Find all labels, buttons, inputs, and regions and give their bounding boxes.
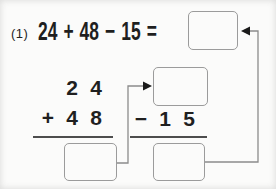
addition-top-tens: 2 [60,77,84,99]
operand-1: 24 [38,16,57,47]
equals-sign: = [147,16,157,47]
arrow-left-icon [241,27,250,36]
minus-operator: − [105,16,115,47]
addition-bottom-ones: 8 [84,107,108,129]
addition-top-ones: 4 [84,77,108,99]
addition-top-row: 2 4 [36,77,108,99]
subtraction-minus-sign: − [129,108,153,130]
arrow-right-icon [143,82,152,91]
addition-result-box[interactable] [64,143,117,181]
connector-line-sub-to-answer [205,31,258,162]
addition-bottom-tens: 4 [60,107,84,129]
problem-number: (1) [11,26,28,41]
operand-3: 15 [121,16,140,47]
subtraction-rule-line [130,136,207,138]
addition-plus-sign: + [36,107,60,129]
subtraction-result-box[interactable] [153,143,205,181]
subtraction-tens: 1 [153,108,177,130]
addition-top-blank [36,77,60,99]
addition-bottom-row: + 4 8 [36,107,108,129]
subtraction-row: − 1 5 [129,108,201,130]
operand-2: 48 [80,16,99,47]
final-answer-box[interactable] [188,11,238,50]
minuend-box[interactable] [153,67,208,106]
subtraction-ones: 5 [177,108,201,130]
addition-rule-line [33,136,113,138]
expression: 24 + 48 − 15 = [38,17,157,45]
worksheet-canvas: (1) 24 + 48 − 15 = 2 4 + 4 8 − 1 5 [0,0,276,189]
plus-operator: + [63,16,73,47]
